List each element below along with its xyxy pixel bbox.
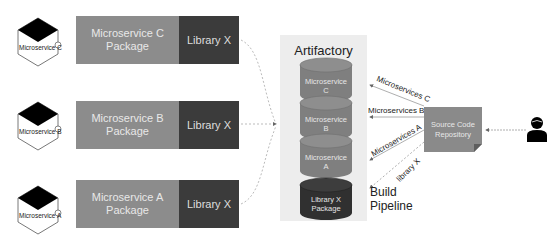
microservice-c-label: Microservice C	[19, 44, 62, 51]
store-library-x-package: Library XPackage	[298, 177, 354, 221]
microservice-a-label: Microservice A	[19, 212, 61, 219]
package-line2: Package	[91, 125, 163, 138]
store-line2: B	[298, 124, 354, 133]
store-microservice-a: MicroserviceA	[298, 133, 354, 179]
package-line1: Microservice B	[91, 112, 163, 125]
store-line2: Package	[298, 204, 354, 213]
folded-corner-icon	[474, 144, 482, 152]
microservice-c-package: Microservice CPackage	[76, 16, 179, 64]
build-line1: Build	[370, 185, 413, 199]
repo-line2: Repository	[431, 130, 475, 140]
library-x-c: Library X	[179, 16, 239, 64]
package-line1: Microservice A	[92, 191, 164, 204]
library-x-b: Library X	[179, 101, 239, 149]
arrow-label-ms-b: Microservices B	[368, 106, 424, 115]
microservice-b-package: Microservice BPackage	[76, 101, 179, 149]
store-line1: Library X	[298, 195, 354, 204]
store-line1: Microservice	[298, 77, 354, 86]
package-line1: Microservice C	[91, 27, 164, 40]
build-line2: Pipeline	[370, 199, 413, 213]
person-icon	[526, 116, 548, 142]
hexagon-microservice-icon	[14, 16, 62, 68]
library-x-a: Library X	[179, 180, 239, 228]
build-pipeline-label: Build Pipeline	[370, 185, 413, 213]
package-line2: Package	[91, 40, 164, 53]
hexagon-microservice-icon	[14, 100, 62, 152]
lib-a-connector	[241, 126, 276, 204]
microservice-b-node: Microservice B	[14, 100, 62, 152]
store-line2: A	[298, 162, 354, 171]
repo-line1: Source Code	[431, 120, 475, 130]
store-line1: Microservice	[298, 153, 354, 162]
microservice-c-node: Microservice C	[14, 16, 62, 68]
store-line2: C	[298, 86, 354, 95]
store-line1: Microservice	[298, 115, 354, 124]
artifactory-container: Artifactory MicroserviceC MicroserviceB …	[280, 35, 367, 221]
microservice-a-node: Microservice A	[14, 184, 62, 236]
microservice-a-package: Microservice APackage	[76, 180, 179, 228]
microservice-b-label: Microservice B	[19, 128, 62, 135]
lib-c-connector	[241, 40, 276, 124]
hexagon-microservice-icon	[14, 184, 62, 236]
package-line2: Package	[92, 204, 164, 217]
artifactory-title: Artifactory	[280, 43, 367, 58]
